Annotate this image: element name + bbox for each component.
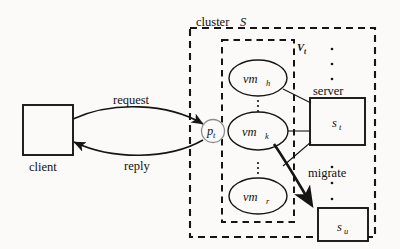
cluster-label-var: S xyxy=(240,15,247,29)
figure-canvas: cluster S V t client request reply migra… xyxy=(0,0,400,249)
server-label-st: s xyxy=(332,116,337,130)
migrate-label: migrate xyxy=(308,166,347,180)
architecture-diagram: cluster S V t client request reply migra… xyxy=(0,0,400,249)
vm-node-r[interactable] xyxy=(229,178,287,214)
vm-ellipsis-upper xyxy=(257,100,259,112)
request-arrow xyxy=(73,107,203,124)
vm-label-k-sub: k xyxy=(265,131,269,141)
vm-label-h: vm xyxy=(243,72,258,86)
server-box-su[interactable] xyxy=(318,208,368,241)
reply-label: reply xyxy=(124,159,150,173)
mapping-line-h-st xyxy=(283,89,311,103)
client-box[interactable] xyxy=(23,105,73,155)
server-ellipsis-upper xyxy=(331,48,334,81)
request-label: request xyxy=(113,93,150,107)
reply-arrow xyxy=(74,140,203,155)
vm-label-k: vm xyxy=(242,125,257,139)
server-box-st[interactable] xyxy=(310,98,365,145)
client-label: client xyxy=(29,160,57,174)
vm-ellipsis-lower xyxy=(257,162,259,174)
cluster-label-word: cluster xyxy=(196,15,230,29)
vm-label-h-sub: h xyxy=(266,78,270,88)
vm-set-label-sub: t xyxy=(304,47,307,56)
server-label-su-sub: u xyxy=(344,226,348,236)
server-caption: server xyxy=(313,84,344,98)
vm-node-h[interactable] xyxy=(229,60,287,96)
vm-node-k[interactable] xyxy=(228,112,288,150)
server-label-su: s xyxy=(337,220,342,234)
vm-label-r: vm xyxy=(243,190,258,204)
